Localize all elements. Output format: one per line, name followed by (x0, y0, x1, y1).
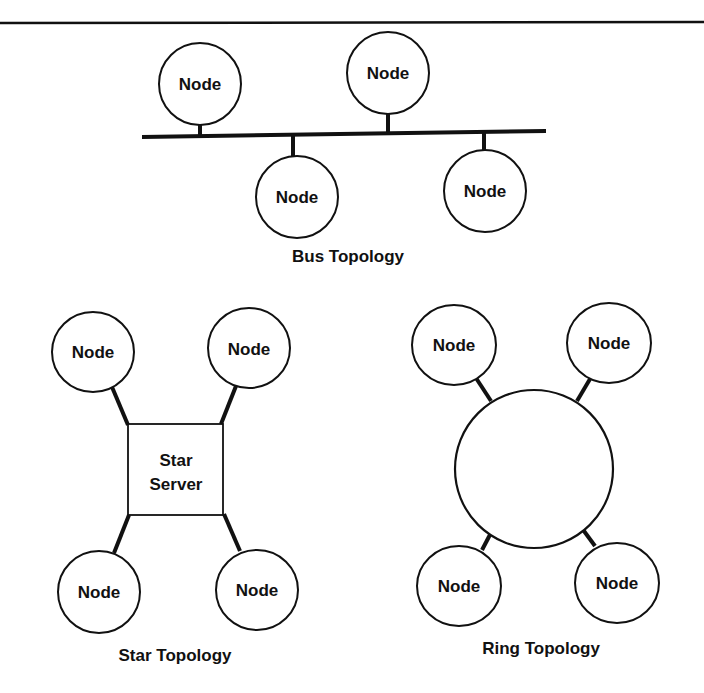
node-label: Node (438, 577, 481, 596)
star-link-bottom-left (114, 515, 129, 553)
node-label: Node (596, 574, 639, 593)
star-topology: Star Server Node Node Node Node Star Top… (52, 308, 298, 665)
ring-node-bottom-left: Node (417, 546, 501, 626)
bus-node-bottom-left: Node (256, 156, 338, 238)
bus-topology: Node Node Node Node Bus Topology (142, 32, 546, 266)
star-link-bottom-right (224, 514, 240, 551)
ring-node-top-right: Node (567, 303, 651, 383)
bus-node-bottom-right: Node (444, 150, 526, 232)
bus-node-top-middle: Node (347, 32, 429, 114)
star-node-top-right: Node (208, 308, 290, 388)
star-link-top-right (221, 386, 236, 424)
bus-topology-caption: Bus Topology (292, 247, 405, 266)
ring-node-bottom-right: Node (575, 543, 659, 623)
node-label: Node (236, 581, 279, 600)
star-node-bottom-left: Node (58, 551, 140, 633)
star-server-label-line2: Server (150, 475, 203, 494)
node-label: Node (588, 334, 631, 353)
node-label: Node (276, 188, 319, 207)
ring-topology: Node Node Node Node Ring Topology (412, 303, 659, 658)
star-topology-caption: Star Topology (118, 646, 232, 665)
star-node-bottom-right: Node (216, 550, 298, 630)
node-label: Node (367, 64, 410, 83)
ring-link-top-left (476, 378, 491, 401)
ring-link-top-right (577, 379, 590, 401)
top-rule (0, 22, 704, 23)
node-label: Node (464, 182, 507, 201)
star-link-top-left (112, 387, 128, 425)
network-topologies-figure: Node Node Node Node Bus Topology Star Se… (0, 0, 704, 693)
node-label: Node (72, 343, 115, 362)
ring-circle (455, 390, 613, 548)
ring-node-top-left: Node (412, 305, 496, 385)
star-server-label-line1: Star (159, 451, 192, 470)
star-node-top-left: Node (52, 312, 134, 392)
bus-node-top-left: Node (159, 43, 241, 125)
node-label: Node (179, 75, 222, 94)
ring-topology-caption: Ring Topology (482, 639, 600, 658)
node-label: Node (78, 583, 121, 602)
node-label: Node (228, 340, 271, 359)
node-label: Node (433, 336, 476, 355)
